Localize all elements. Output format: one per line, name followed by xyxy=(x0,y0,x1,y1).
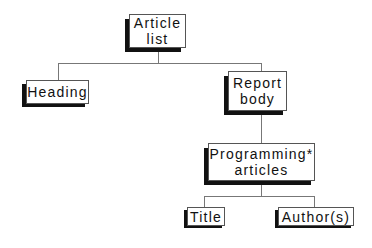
node-label: Heading xyxy=(26,80,89,104)
node-label: Author(s) xyxy=(278,207,354,226)
edge-to-authors xyxy=(314,196,315,207)
node-label: Article list xyxy=(129,14,186,48)
edge-level1-horizontal xyxy=(58,63,262,64)
edge-level3-horizontal xyxy=(204,196,315,197)
edge-to-title xyxy=(204,196,205,207)
edge-to-heading xyxy=(58,63,59,80)
node-label: Report body xyxy=(228,71,287,111)
node-label: Title xyxy=(187,207,225,226)
node-label: Programming* articles xyxy=(208,143,315,181)
edge-to-report-body xyxy=(261,63,262,71)
